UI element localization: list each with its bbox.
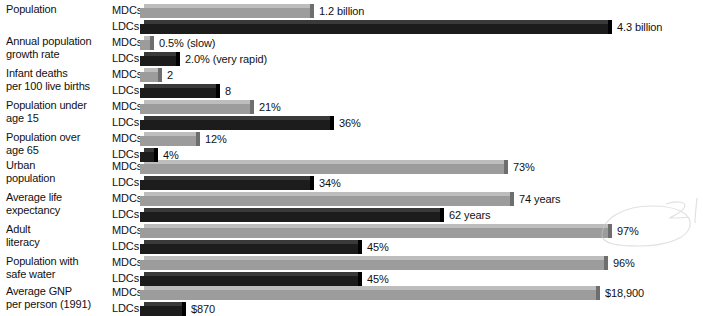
series-label-mdc: MDCs	[112, 223, 142, 237]
series-label-ldc: LDCs	[112, 83, 139, 97]
bar-end-cap	[604, 256, 608, 270]
series-label-mdc: MDCs	[112, 35, 142, 49]
bar-end-cap	[358, 240, 362, 254]
bar-ldc	[140, 24, 608, 34]
category-label: Population withsafe water	[6, 255, 110, 281]
bar-front-face	[140, 88, 216, 98]
category-label-line1: Annual population	[6, 35, 92, 47]
bar-value-label: 4%	[163, 150, 179, 161]
chart-row: Average GNPper person (1991)MDCs$18,900L…	[0, 284, 703, 314]
chart-row: Annual populationgrowth rateMDCs0.5% (sl…	[0, 34, 703, 64]
bar-mdc	[140, 136, 196, 146]
bar-top-face	[144, 224, 612, 228]
bar-end-cap	[250, 100, 254, 114]
bar-end-cap	[504, 160, 508, 174]
bar-ldc	[140, 212, 440, 222]
category-label-line1: Average life	[6, 191, 62, 203]
category-label-line2: per 100 live births	[6, 80, 110, 93]
bar-end-cap	[182, 302, 186, 316]
bar-front-face	[140, 276, 358, 286]
category-label-line2: safe water	[6, 268, 110, 281]
series-label-ldc: LDCs	[112, 239, 139, 253]
bar-top-face	[144, 176, 314, 180]
bar-end-cap	[510, 192, 514, 206]
bar-ldc	[140, 120, 330, 130]
bar-value-label: 2	[167, 70, 173, 81]
bar-mdc	[140, 196, 510, 206]
bar-value-label: 21%	[259, 102, 281, 113]
bar-value-label: 73%	[513, 162, 535, 173]
series-label-mdc: MDCs	[112, 255, 142, 269]
series-label-mdc: MDCs	[112, 191, 142, 205]
bar-top-face	[144, 160, 508, 164]
bar-value-label: 74 years	[519, 194, 560, 205]
series-label-ldc: LDCs	[112, 175, 139, 189]
bar-front-face	[140, 8, 310, 18]
category-label-line1: Population under	[6, 99, 87, 111]
category-label-line2: age 15	[6, 112, 110, 125]
bar-value-label: 4.3 billion	[617, 22, 662, 33]
category-label-line1: Population	[6, 3, 57, 15]
bar-end-cap	[158, 68, 162, 82]
bar-value-label: 0.5% (slow)	[159, 38, 215, 49]
bar-end-cap	[216, 84, 220, 98]
bar-mdc	[140, 290, 596, 300]
category-label-line2: age 65	[6, 144, 110, 157]
category-label-line2: growth rate	[6, 48, 110, 61]
bar-value-label: $18,900	[605, 288, 644, 299]
chart-row: Average lifeexpectancyMDCs74 yearsLDCs62…	[0, 190, 703, 220]
bar-end-cap	[596, 286, 600, 300]
bar-end-cap	[440, 208, 444, 222]
bar-front-face	[140, 212, 440, 222]
category-label-line1: Adult	[6, 223, 30, 235]
bar-top-face	[144, 272, 362, 276]
category-label: Urbanpopulation	[6, 159, 110, 185]
bar-front-face	[140, 24, 608, 34]
bar-front-face	[140, 260, 604, 270]
bar-top-face	[144, 20, 612, 24]
chart-row: PopulationMDCs1.2 billionLDCs4.3 billion	[0, 2, 703, 32]
bar-front-face	[140, 152, 154, 162]
bar-ldc	[140, 180, 310, 190]
series-label-mdc: MDCs	[112, 131, 142, 145]
bar-value-label: 36%	[339, 118, 361, 129]
bar-top-face	[144, 116, 334, 120]
bar-value-label: 1.2 billion	[319, 6, 364, 17]
chart-row: Population withsafe waterMDCs96%LDCs45%	[0, 254, 703, 284]
bar-top-face	[144, 302, 186, 306]
category-label-line2: literacy	[6, 236, 110, 249]
category-label: Population overage 65	[6, 131, 110, 157]
bar-front-face	[140, 136, 196, 146]
bar-value-label: 97%	[617, 226, 639, 237]
bar-front-face	[140, 40, 150, 50]
bar-ldc	[140, 152, 154, 162]
bar-end-cap	[150, 36, 154, 50]
bar-top-face	[144, 208, 444, 212]
bar-top-face	[144, 132, 200, 136]
bar-front-face	[140, 104, 250, 114]
category-label-line2: population	[6, 172, 110, 185]
bar-end-cap	[310, 176, 314, 190]
bar-top-face	[144, 286, 600, 290]
bar-end-cap	[176, 52, 180, 66]
bar-mdc	[140, 72, 158, 82]
chart-row: Population overage 65MDCs12%LDCs4%	[0, 130, 703, 160]
bar-front-face	[140, 56, 176, 66]
bar-front-face	[140, 164, 504, 174]
chart-row: Infant deathsper 100 live birthsMDCs2LDC…	[0, 66, 703, 96]
bar-front-face	[140, 196, 510, 206]
bar-value-label: 96%	[613, 258, 635, 269]
bar-front-face	[140, 244, 358, 254]
series-label-mdc: MDCs	[112, 3, 142, 17]
bar-front-face	[140, 180, 310, 190]
category-label-line2: expectancy	[6, 204, 110, 217]
bar-mdc	[140, 260, 604, 270]
bar-front-face	[140, 72, 158, 82]
bar-value-label: 34%	[319, 178, 341, 189]
bar-end-cap	[608, 20, 612, 34]
bar-end-cap	[154, 148, 158, 162]
category-label: Average lifeexpectancy	[6, 191, 110, 217]
category-label: Average GNPper person (1991)	[6, 285, 110, 311]
bar-value-label: 8	[225, 86, 231, 97]
bar-end-cap	[330, 116, 334, 130]
